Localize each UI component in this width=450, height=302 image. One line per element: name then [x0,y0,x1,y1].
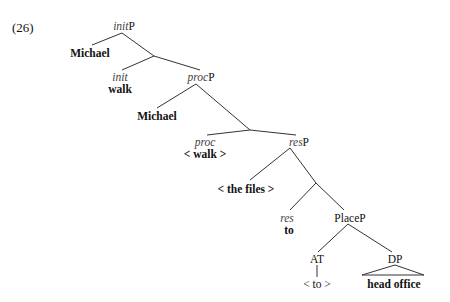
node-spec-proc: Michael [137,110,177,122]
node-dp: DP [388,253,403,265]
word-res: to [284,224,294,236]
node-resP: resP [289,136,309,148]
node-init-head: init [112,71,127,83]
node-placeP: PlaceP [334,212,365,224]
node-res-head: res [280,212,294,224]
word-init: walk [108,83,132,95]
node-spec-res: < the files > [218,183,275,195]
node-proc-head: proc [195,136,216,148]
node-spec-init: Michael [70,47,110,59]
node-at: AT [310,253,324,265]
word-proc: < walk > [184,148,227,160]
word-dp: head office [367,278,420,290]
node-initP: initP [113,20,135,32]
node-procP: procP [187,71,214,83]
word-at: < to > [303,278,331,290]
